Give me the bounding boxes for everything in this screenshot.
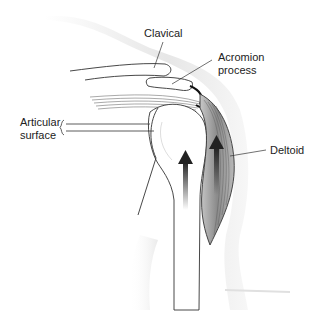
label-acromion-line2: process bbox=[218, 64, 257, 77]
label-articular-line2: surface bbox=[20, 129, 56, 142]
diagram-artwork bbox=[0, 0, 316, 315]
articular-surface-lines bbox=[60, 120, 154, 135]
label-acromion-line1: Acromion bbox=[218, 51, 264, 64]
shoulder-diagram: Clavical Acromion process Articular surf… bbox=[0, 0, 316, 315]
humerus-bone bbox=[148, 104, 206, 310]
label-deltoid: Deltoid bbox=[270, 144, 304, 157]
label-clavical: Clavical bbox=[144, 27, 183, 40]
acromion-bone bbox=[146, 77, 192, 90]
label-articular-line1: Articular bbox=[20, 116, 60, 129]
